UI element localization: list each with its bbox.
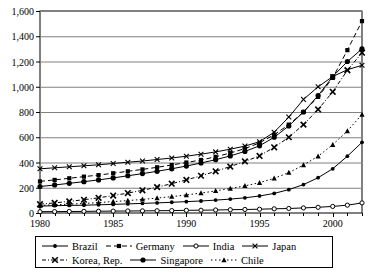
legend-key-chile [209, 254, 239, 266]
x-axis-tick-label: 2000 [323, 218, 343, 229]
series-marker-singapore [140, 171, 145, 176]
chart-legend: BrazilGermanyIndiaJapan Korea, Rep.Singa… [35, 236, 333, 268]
series-marker-brazil [228, 197, 232, 201]
series-marker-singapore [198, 160, 203, 165]
series-marker-india [228, 208, 232, 212]
y-axis-tick-label: 800 [19, 107, 34, 118]
series-marker-india [287, 206, 291, 210]
series-marker-india [170, 209, 174, 213]
series-marker-brazil [155, 201, 159, 205]
series-marker-singapore [330, 74, 335, 79]
series-marker-india [53, 210, 57, 214]
series-marker-germany [82, 175, 86, 179]
y-axis-tick-label: 1,000 [12, 82, 35, 93]
series-marker-india [331, 204, 335, 208]
series-marker-india [140, 209, 144, 213]
series-marker-india [199, 208, 203, 212]
series-marker-india [214, 208, 218, 212]
legend-key-india [181, 240, 211, 252]
legend-row: BrazilGermanyIndiaJapan [40, 239, 328, 253]
x-axis-tick-label: 1995 [250, 218, 270, 229]
y-axis-tick-label: 1,200 [12, 57, 35, 68]
series-marker-india [38, 210, 42, 214]
series-marker-singapore [257, 143, 262, 148]
x-axis-tick-label: 1980 [30, 218, 50, 229]
series-marker-brazil [302, 183, 306, 187]
series-marker-india [360, 201, 364, 205]
series-marker-brazil [170, 200, 174, 204]
series-marker-india [272, 207, 276, 211]
legend-item-brazil: Brazil [40, 239, 104, 253]
series-marker-brazil [316, 176, 320, 180]
series-marker-brazil [345, 154, 349, 158]
legend-label: Korea, Rep. [70, 255, 128, 266]
series-marker-brazil [331, 167, 335, 171]
legend-key-brazil [40, 240, 70, 252]
series-marker-brazil [243, 196, 247, 200]
legend-item-japan: Japan [240, 239, 302, 253]
series-marker-india [67, 209, 71, 213]
legend-row: Korea, Rep.SingaporeChile [40, 253, 328, 267]
legend-label: Germany [134, 241, 181, 252]
legend-item-germany: Germany [104, 239, 181, 253]
series-marker-singapore [169, 166, 174, 171]
series-marker-germany [96, 173, 100, 177]
series-marker-india [316, 205, 320, 209]
chart-screenshot: 02004006008001,0001,2001,4001,6001980198… [0, 0, 370, 274]
line-chart-figure: 02004006008001,0001,2001,4001,6001980198… [0, 0, 370, 232]
series-marker-singapore [359, 46, 364, 51]
series-marker-singapore [111, 175, 116, 180]
series-marker-singapore [37, 184, 42, 189]
y-axis-tick-label: 1,400 [12, 31, 35, 42]
legend-label: Brazil [70, 241, 104, 252]
plot-area: 02004006008001,0001,2001,4001,6001980198… [0, 0, 370, 232]
y-axis-tick-label: 400 [19, 158, 34, 169]
series-marker-germany [360, 19, 364, 23]
series-marker-singapore [67, 181, 72, 186]
series-marker-singapore [96, 177, 101, 182]
legend-key-germany [104, 240, 134, 252]
series-marker-singapore [52, 182, 57, 187]
series-marker-india [155, 209, 159, 213]
series-marker-brazil [258, 194, 262, 198]
series-marker-singapore [81, 179, 86, 184]
series-marker-india [243, 207, 247, 211]
legend-label: Japan [270, 241, 302, 252]
y-axis-tick-label: 600 [19, 132, 34, 143]
legend-label: India [211, 241, 241, 252]
series-marker-germany [53, 178, 57, 182]
series-marker-india [257, 207, 261, 211]
series-marker-india [126, 209, 130, 213]
x-axis-tick-label: 1985 [103, 218, 123, 229]
series-marker-singapore [315, 93, 320, 98]
series-marker-singapore [213, 157, 218, 162]
series-marker-singapore [301, 109, 306, 114]
legend-label: Singapore [158, 255, 209, 266]
legend-item-korea-rep: Korea, Rep. [40, 253, 128, 267]
legend-item-india: India [181, 239, 241, 253]
series-marker-india [82, 209, 86, 213]
series-marker-germany [140, 167, 144, 171]
series-marker-brazil [287, 188, 291, 192]
y-axis-tick-label: 200 [19, 183, 34, 194]
series-marker-brazil [214, 198, 218, 202]
series-marker-singapore [125, 173, 130, 178]
series-marker-india [111, 209, 115, 213]
series-marker-singapore [345, 59, 350, 64]
series-marker-singapore [242, 149, 247, 154]
series-marker-germany [126, 169, 130, 173]
x-axis-tick-label: 1990 [176, 218, 196, 229]
series-marker-india [184, 208, 188, 212]
series-marker-germany [111, 171, 115, 175]
series-marker-india [345, 203, 349, 207]
series-marker-brazil [184, 200, 188, 204]
legend-key-singapore [128, 254, 158, 266]
legend-key-korea-rep [40, 254, 70, 266]
series-marker-germany [345, 48, 349, 52]
series-marker-singapore [228, 153, 233, 158]
series-marker-germany [38, 179, 42, 183]
legend-key-japan [240, 240, 270, 252]
series-marker-brazil [199, 199, 203, 203]
legend-label: Chile [239, 255, 270, 266]
series-marker-brazil [272, 192, 276, 196]
